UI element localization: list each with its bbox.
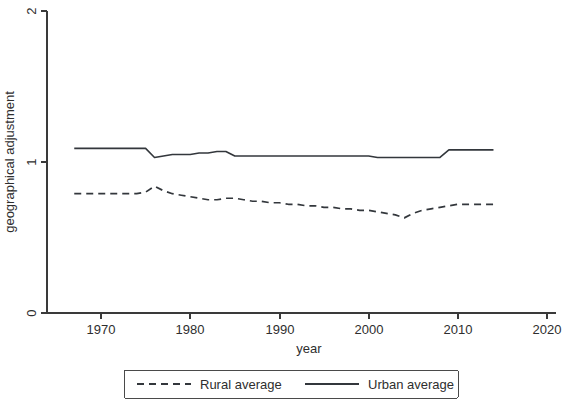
series-line-rural-average	[74, 186, 493, 218]
x-tick-label-2010: 2010	[444, 322, 473, 337]
chart-figure: 2 1 0 1970 1980 1990 2000 2010 2020 geog…	[0, 0, 564, 402]
x-tick-group: 1970 1980 1990 2000 2010 2020	[87, 313, 562, 337]
x-tick-label-1990: 1990	[266, 322, 295, 337]
chart-legend: Rural average Urban average	[124, 370, 458, 398]
line-chart: 2 1 0 1970 1980 1990 2000 2010 2020 geog…	[0, 0, 564, 402]
y-tick-label-1: 1	[24, 158, 39, 165]
y-tick-label-0: 0	[24, 309, 39, 316]
y-axis-title: geographical adjustment	[2, 91, 17, 233]
x-tick-label-1980: 1980	[176, 322, 205, 337]
x-tick-label-2020: 2020	[533, 322, 562, 337]
x-tick-label-1970: 1970	[87, 322, 116, 337]
series-line-urban-average	[74, 148, 493, 157]
legend-label-rural-average: Rural average	[200, 377, 282, 392]
y-tick-group: 2 1 0	[24, 7, 48, 316]
x-tick-label-2000: 2000	[355, 322, 384, 337]
x-axis-title: year	[296, 341, 322, 356]
legend-label-urban-average: Urban average	[368, 377, 454, 392]
y-tick-label-2: 2	[24, 7, 39, 14]
